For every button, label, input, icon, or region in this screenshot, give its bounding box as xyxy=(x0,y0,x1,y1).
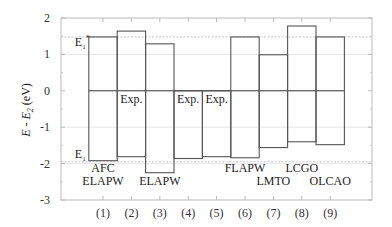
x-tick-label: (2) xyxy=(124,206,138,220)
bar-3 xyxy=(146,44,174,173)
x-tick-label: (5) xyxy=(210,206,224,220)
method-label: Exp. xyxy=(177,92,199,106)
bar-1 xyxy=(89,37,117,161)
band-edge-chart: 210-1-2-3 (1)(2)(3)(4)(5)(6)(7)(8)(9) E1… xyxy=(0,0,392,227)
x-tick-label: (7) xyxy=(266,206,280,220)
method-label: OLCAO xyxy=(310,174,352,188)
method-label: Exp. xyxy=(120,92,142,106)
bar-8 xyxy=(288,26,316,142)
e1-label: E1 xyxy=(75,147,86,163)
y-tick-label: 1 xyxy=(44,47,50,61)
y-tick-label: -3 xyxy=(40,193,50,207)
bar-7 xyxy=(259,55,287,148)
y-tick-label: 0 xyxy=(44,84,50,98)
method-label: Exp. xyxy=(205,92,227,106)
y-tick-label: -2 xyxy=(40,157,50,171)
x-tick-label: (3) xyxy=(153,206,167,220)
method-label: LCGO xyxy=(285,161,318,175)
bar-6 xyxy=(231,37,259,158)
x-axis-ticks: (1)(2)(3)(4)(5)(6)(7)(8)(9) xyxy=(96,18,337,220)
method-label: ELAPW xyxy=(139,174,181,188)
x-tick-label: (4) xyxy=(181,206,195,220)
x-tick-label: (1) xyxy=(96,206,110,220)
grid-lines xyxy=(61,54,372,163)
y-axis-label: E - E2 (eV) xyxy=(19,83,35,138)
y-tick-label: 2 xyxy=(44,11,50,25)
x-tick-label: (9) xyxy=(323,206,337,220)
x-tick-label: (6) xyxy=(238,206,252,220)
y-tick-label: -1 xyxy=(40,120,50,134)
method-label: FLAPW xyxy=(225,161,266,175)
annotations: E1*E1AFCELAPWExp.ELAPWExp.Exp.FLAPWLMTOL… xyxy=(75,34,351,188)
method-label: LMTO xyxy=(257,174,291,188)
x-tick-label: (8) xyxy=(295,206,309,220)
method-label: ELAPW xyxy=(82,174,124,188)
method-label: AFC xyxy=(91,161,114,175)
